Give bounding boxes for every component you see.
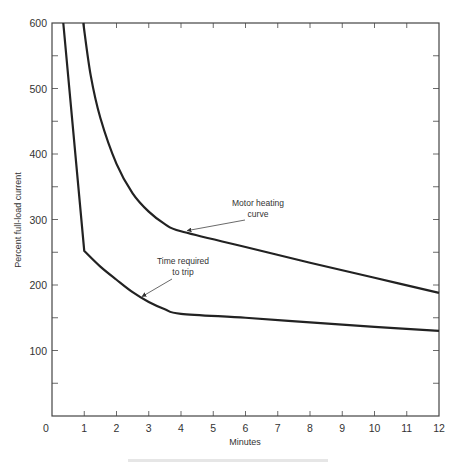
x-tick-label: 6 [243,422,249,434]
x-tick-label: 8 [307,422,313,434]
x-tick-label: 10 [369,422,381,434]
y-tick-label: 500 [29,83,47,95]
x-tick-label: 0 [43,422,49,434]
y-tick-label: 400 [29,148,47,160]
curves [63,23,439,331]
plot-frame [52,23,439,416]
motor-heating-arrow-icon [187,220,245,231]
y-tick-label: 300 [29,214,47,226]
annotation-motor-heating-line1: Motor heating [232,198,284,208]
axis-ticks [52,23,439,416]
trip-arrow-icon [142,279,172,296]
annotation-motor-heating-line2: curve [248,209,269,219]
x-tick-label: 5 [210,422,216,434]
annotation-trip-line1: Time required [157,256,209,266]
motor-heating-curve [83,23,439,293]
time-to-trip-curve [63,23,439,331]
x-tick-labels: 0123456789101112 [43,422,445,434]
y-tick-labels: 100200300400500600 [29,17,47,357]
x-tick-label: 3 [146,422,152,434]
x-tick-label: 11 [401,422,412,434]
x-tick-label: 9 [339,422,345,434]
x-axis-title: Minutes [229,437,261,447]
chart: 0123456789101112 100200300400500600 Minu… [0,0,455,462]
x-tick-label: 2 [114,422,120,434]
x-tick-label: 1 [81,422,87,434]
x-tick-label: 7 [275,422,281,434]
y-axis-title: Percent full-load current [13,172,23,268]
x-tick-label: 12 [433,422,445,434]
y-tick-label: 600 [29,17,47,29]
annotation-trip-line2: to trip [172,267,194,277]
y-tick-label: 100 [29,345,47,357]
plot-border [52,23,439,416]
x-tick-label: 4 [178,422,184,434]
y-tick-label: 200 [29,279,47,291]
